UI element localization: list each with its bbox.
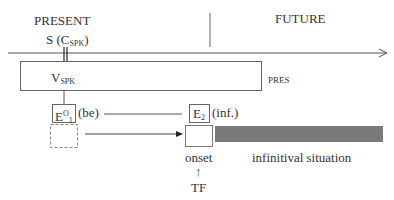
present-label: PRESENT <box>34 14 90 28</box>
onset-label: onset <box>185 151 212 165</box>
e2-box: E2 <box>189 104 210 123</box>
e1-note: (be) <box>78 106 99 120</box>
infinitival-situation-label: infinitival situation <box>252 151 351 165</box>
v-speaker-box: VSPK <box>20 61 262 91</box>
speaker-label: S (CSPK) <box>46 33 89 51</box>
infinitival-situation-bar <box>215 126 383 142</box>
e2-note: (inf.) <box>212 106 238 120</box>
pres-label: PRES <box>268 73 290 87</box>
onset-box <box>185 125 213 147</box>
tf-label: TF <box>191 181 206 195</box>
e1-box: EO1 <box>52 104 76 123</box>
v-speaker-label: VSPK <box>51 71 75 89</box>
future-label: FUTURE <box>275 12 326 26</box>
onset-arrowhead-icon <box>176 131 183 137</box>
tf-up-arrow-icon: ↑ <box>195 165 202 179</box>
